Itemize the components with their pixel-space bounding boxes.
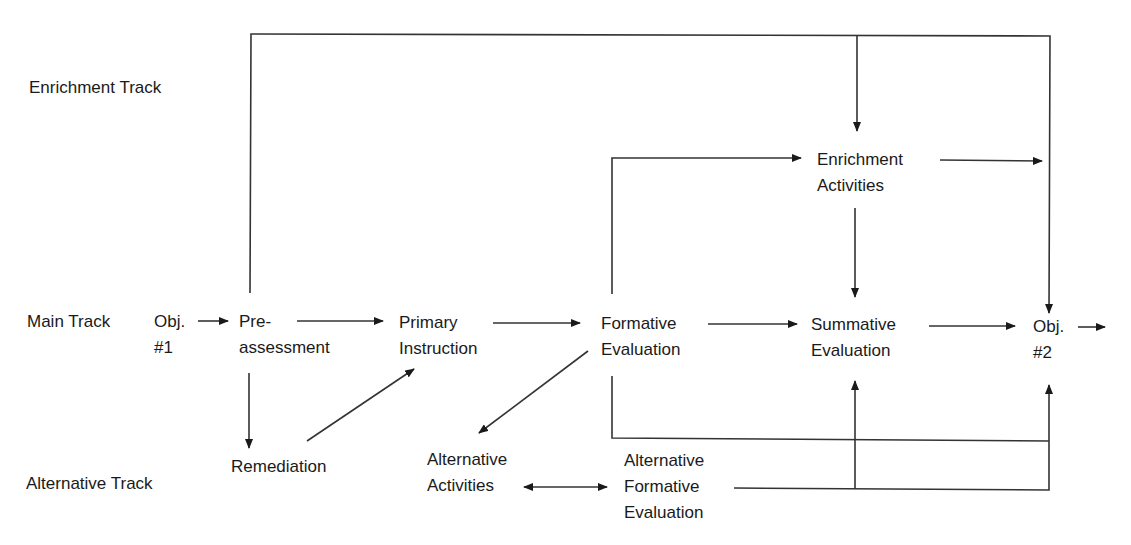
node-summative-evaluation: Summative Evaluation xyxy=(811,312,896,364)
node-line: Obj. xyxy=(154,309,185,335)
node-line: Evaluation xyxy=(601,337,680,363)
node-alternative-activities: Alternative Activities xyxy=(427,447,507,499)
node-line: Instruction xyxy=(399,336,477,362)
node-enrichment-activities: Enrichment Activities xyxy=(817,147,903,199)
node-line: Activities xyxy=(427,473,507,499)
node-preassessment: Pre- assessment xyxy=(239,309,330,361)
node-line: Primary xyxy=(399,310,477,336)
node-line: Alternative xyxy=(624,448,704,474)
track-label-text: Enrichment Track xyxy=(29,75,161,101)
node-primary-instruction: Primary Instruction xyxy=(399,310,477,362)
edge-enrichment-obj2 xyxy=(940,160,1042,161)
node-obj2: Obj. #2 xyxy=(1033,314,1064,366)
edge-formative-bottom xyxy=(612,376,1049,441)
node-line: Remediation xyxy=(231,454,326,480)
node-line: #2 xyxy=(1033,340,1064,366)
node-remediation: Remediation xyxy=(231,454,326,480)
node-line: Enrichment xyxy=(817,147,903,173)
node-formative-evaluation: Formative Evaluation xyxy=(601,311,680,363)
diagram-connectors xyxy=(0,0,1131,545)
track-label-enrichment: Enrichment Track xyxy=(29,75,161,101)
node-obj1: Obj. #1 xyxy=(154,309,185,361)
edge-alt-formative-right xyxy=(734,385,1049,490)
node-line: Activities xyxy=(817,173,903,199)
track-label-alternative: Alternative Track xyxy=(26,471,153,497)
node-alternative-formative-evaluation: Alternative Formative Evaluation xyxy=(624,448,704,526)
track-label-text: Main Track xyxy=(27,309,110,335)
track-label-main: Main Track xyxy=(27,309,110,335)
node-line: Pre- xyxy=(239,309,330,335)
edge-formative-alternative xyxy=(479,351,588,433)
node-line: #1 xyxy=(154,335,185,361)
node-line: Summative xyxy=(811,312,896,338)
node-line: Alternative xyxy=(427,447,507,473)
edge-formative-enrichment xyxy=(612,158,801,294)
edge-preassessment-top-loop xyxy=(250,34,1050,313)
node-line: Evaluation xyxy=(624,500,704,526)
node-line: Formative xyxy=(601,311,680,337)
node-line: assessment xyxy=(239,335,330,361)
node-line: Evaluation xyxy=(811,338,896,364)
edge-remediation-primary xyxy=(307,369,414,441)
track-label-text: Alternative Track xyxy=(26,471,153,497)
node-line: Obj. xyxy=(1033,314,1064,340)
node-line: Formative xyxy=(624,474,704,500)
